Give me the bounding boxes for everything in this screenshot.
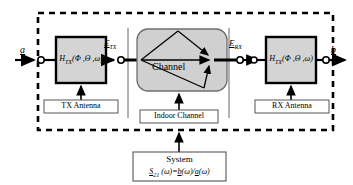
tx-args: (Φ ,Θ ,ω) — [72, 54, 103, 63]
input-label-a: a — [20, 45, 25, 55]
system-formula: S21 (ω)=b(ω)/a(ω) — [133, 166, 226, 179]
tx-block-label: HTX(Φ ,Θ ,ω) — [56, 37, 106, 83]
rx-block-label: HTX(Φ ,Θ ,ω) — [266, 37, 316, 83]
node-etx — [118, 57, 124, 63]
formula-rest: (ω)= — [159, 167, 177, 176]
etx-label: ETX — [104, 39, 117, 50]
node-b — [323, 57, 329, 63]
etx-subscript: TX — [110, 44, 117, 50]
rx-caption-label: RX Antenna — [255, 100, 329, 113]
formula-omega1: (ω)/ — [182, 167, 195, 176]
node-erx — [237, 57, 243, 63]
node-a — [38, 57, 44, 63]
formula-omega2: (ω) — [199, 167, 210, 176]
rx-subscript: TX — [275, 59, 282, 65]
node-rx-in — [251, 57, 257, 63]
rx-args: (Φ ,Θ ,ω) — [282, 54, 313, 63]
channel-caption-label: Indoor Channel — [140, 110, 218, 123]
erx-subscript: RX — [235, 44, 242, 50]
channel-label: Channel — [152, 62, 185, 72]
erx-label: ERX — [229, 39, 242, 50]
tx-subscript: TX — [65, 59, 72, 65]
tx-caption-label: TX Antenna — [44, 100, 118, 113]
system-title: System — [133, 154, 226, 166]
output-label-b: b — [331, 45, 336, 55]
diagram-canvas: a HTX(Φ ,Θ ,ω) ETX Channel ERX HTX(Φ ,Θ … — [0, 0, 353, 185]
